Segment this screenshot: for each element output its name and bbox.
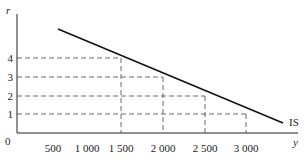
x-tick-labels: 500 1 000 1 500 2 000 2 500 3 000 xyxy=(45,142,259,154)
is-curve xyxy=(58,29,283,123)
x-axis-label: y xyxy=(292,136,298,148)
curve-label: IS xyxy=(289,116,299,128)
svg-text:1: 1 xyxy=(8,108,14,120)
is-curve-chart: r y 0 IS 1 2 3 4 500 1 000 1 500 2 000 2… xyxy=(0,0,305,167)
svg-text:1 000: 1 000 xyxy=(75,142,100,154)
svg-text:2 500: 2 500 xyxy=(193,142,218,154)
svg-text:500: 500 xyxy=(45,142,62,154)
y-axis-label: r xyxy=(6,4,11,16)
y-tick-labels: 1 2 3 4 xyxy=(8,52,14,120)
svg-text:2: 2 xyxy=(8,90,14,102)
svg-text:2 000: 2 000 xyxy=(151,142,176,154)
guide-lines xyxy=(17,58,246,133)
svg-text:4: 4 xyxy=(8,52,14,64)
svg-text:1 500: 1 500 xyxy=(109,142,134,154)
svg-text:3: 3 xyxy=(8,71,14,83)
origin-label: 0 xyxy=(5,135,11,147)
svg-text:3 000: 3 000 xyxy=(234,142,259,154)
